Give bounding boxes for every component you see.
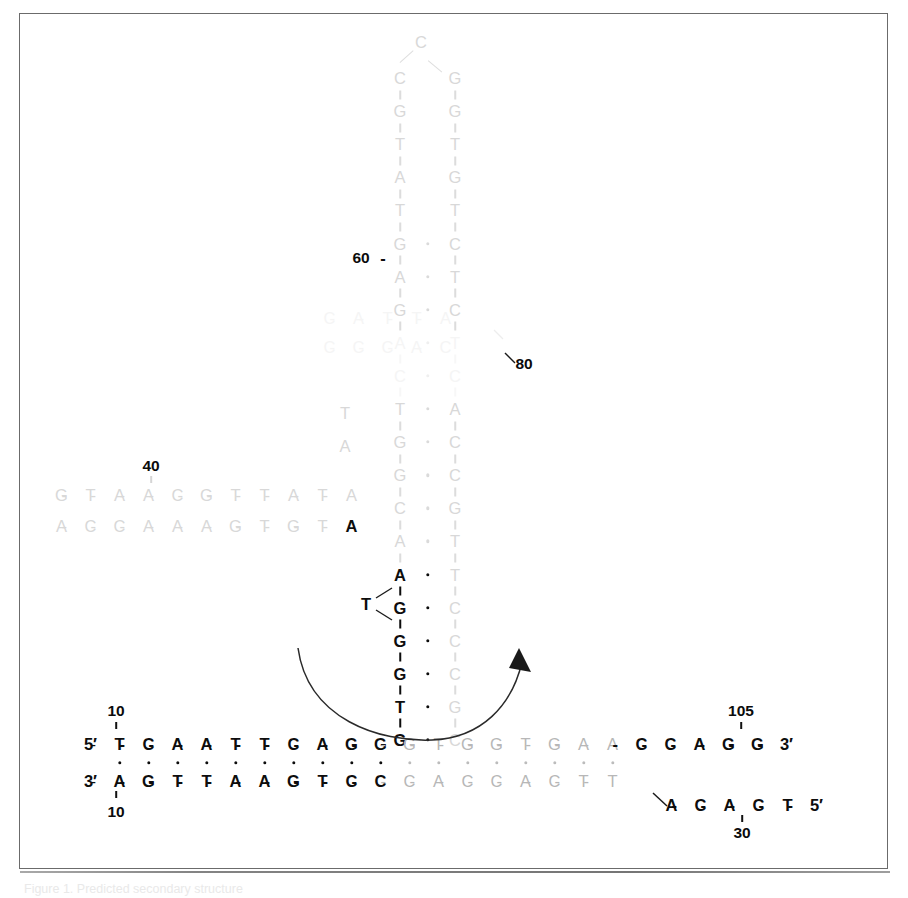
flow-arrowhead	[509, 648, 531, 672]
t-branch-leader-upper	[376, 588, 392, 598]
structure-canvas: C CGGGTTAGTTGCATGCATCCTAGCGCCGATATGCGCGC…	[0, 0, 908, 898]
t-branch-leader-lower	[376, 610, 392, 620]
flow-arc	[298, 648, 522, 740]
vector-overlay	[0, 0, 908, 898]
figure-caption: Figure 1. Predicted secondary structure	[24, 882, 884, 896]
label-80-leader	[505, 353, 515, 363]
tail-strand-leader	[653, 793, 667, 806]
mid-branch-connector	[494, 330, 503, 339]
